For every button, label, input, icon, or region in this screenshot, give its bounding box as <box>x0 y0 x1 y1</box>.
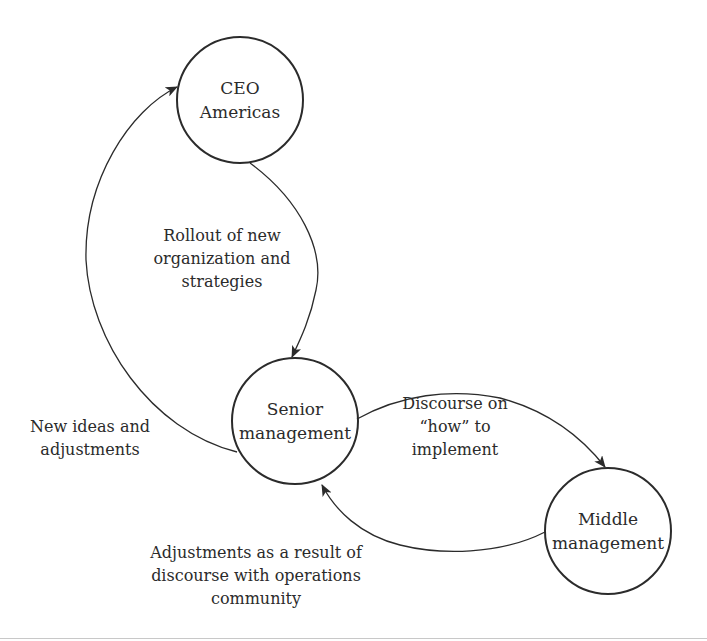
edge-adjustments-line-2: discourse with operations <box>150 564 362 587</box>
node-middle-label: Middle management <box>552 507 664 555</box>
edge-new-ideas-line-1: New ideas and <box>30 415 150 438</box>
edge-rollout-line-1: Rollout of new <box>153 224 290 247</box>
edge-discourse-line-3: implement <box>402 438 507 461</box>
node-senior-label: Senior management <box>239 397 351 445</box>
edge-rollout-line-2: organization and <box>153 247 290 270</box>
edge-discourse-line-2: “how” to <box>402 415 507 438</box>
node-senior-line-2: management <box>239 421 351 445</box>
edge-adjustments-line-3: community <box>150 587 362 610</box>
node-senior-line-1: Senior <box>239 397 351 421</box>
edge-discourse-label: Discourse on “how” to implement <box>402 392 507 461</box>
node-ceo-line-1: CEO <box>200 76 280 100</box>
node-ceo-line-2: Americas <box>200 100 280 124</box>
bottom-divider <box>0 638 707 639</box>
edge-rollout-line-3: strategies <box>153 270 290 293</box>
node-middle-line-1: Middle <box>552 507 664 531</box>
edge-discourse-line-1: Discourse on <box>402 392 507 415</box>
node-middle-line-2: management <box>552 531 664 555</box>
edge-adjustments-line-1: Adjustments as a result of <box>150 541 362 564</box>
edge-adjustments-label: Adjustments as a result of discourse wit… <box>150 541 362 610</box>
diagram-canvas: CEO Americas Senior management Middle ma… <box>0 0 707 641</box>
node-ceo-label: CEO Americas <box>200 76 280 124</box>
edge-new-ideas-line-2: adjustments <box>30 438 150 461</box>
edge-rollout-label: Rollout of new organization and strategi… <box>153 224 290 293</box>
edge-new-ideas-label: New ideas and adjustments <box>30 415 150 461</box>
